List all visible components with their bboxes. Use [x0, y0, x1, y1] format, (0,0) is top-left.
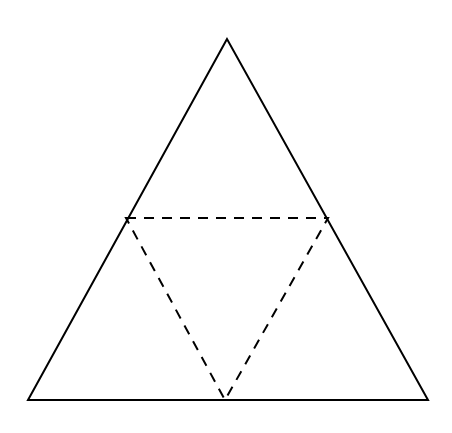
triangle-diagram [0, 0, 452, 433]
diagram-canvas [0, 0, 452, 433]
outer-triangle [28, 39, 428, 400]
inner-dashed-triangle [126, 218, 328, 400]
